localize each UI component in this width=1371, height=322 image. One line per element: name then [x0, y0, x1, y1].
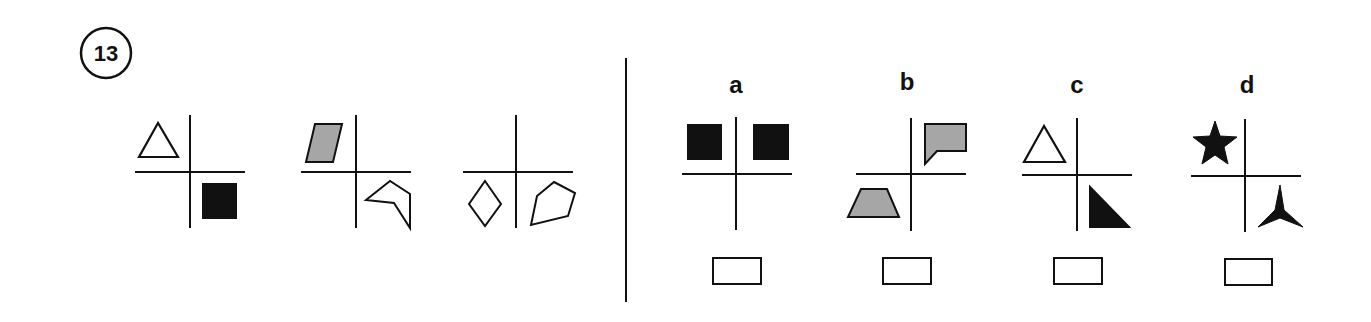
question-number-badge: 13 — [81, 28, 131, 78]
gray-notched-flag-shape — [925, 124, 966, 164]
option-c-label: c — [1070, 71, 1083, 98]
option-a-label: a — [729, 71, 743, 98]
black-right-triangle-shape — [1090, 187, 1129, 227]
black-square-shape — [754, 125, 788, 159]
gray-parallelogram-shape — [306, 124, 342, 162]
sequence-figure-1 — [135, 115, 245, 228]
option-d: d — [1191, 71, 1303, 232]
option-d-answer-box[interactable] — [1225, 259, 1272, 285]
option-b: b — [848, 68, 966, 231]
sequence-figure-2 — [301, 115, 411, 228]
outline-triangle-shape — [139, 123, 178, 157]
puzzle-canvas: 13 a b c — [0, 0, 1371, 322]
sequence-figure-3 — [463, 115, 575, 228]
gray-trapezoid-shape — [848, 189, 899, 217]
option-b-label: b — [900, 68, 915, 95]
option-c-answer-box[interactable] — [1054, 258, 1102, 284]
black-star-shape — [1193, 121, 1237, 164]
outline-diamond-shape — [469, 181, 501, 226]
black-square-shape — [203, 184, 236, 218]
option-a-answer-box[interactable] — [713, 258, 761, 284]
outline-pentagon-shape — [531, 182, 575, 225]
option-b-answer-box[interactable] — [883, 258, 931, 284]
option-c: c — [1022, 71, 1132, 231]
outline-triangle-shape — [1024, 126, 1065, 162]
outline-concave-pentagon-shape — [366, 181, 410, 228]
option-d-label: d — [1240, 71, 1255, 98]
black-square-shape — [688, 125, 721, 159]
question-number: 13 — [94, 41, 118, 66]
black-three-point-star-shape — [1258, 185, 1303, 227]
option-a: a — [682, 71, 792, 230]
